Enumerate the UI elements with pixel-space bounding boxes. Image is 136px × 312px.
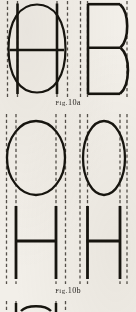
figure-10a-caption: Fig.10a <box>0 98 136 107</box>
figure-10b: Fig.10b <box>0 114 136 300</box>
caption-prefix: Fig. <box>55 99 68 106</box>
narrow-letterform-b <box>76 1 134 97</box>
narrow-h-letter <box>76 200 134 284</box>
figure-10a: Fig.10a <box>0 0 136 112</box>
figure-page: Fig.10a <box>0 0 136 312</box>
wide-h-letter <box>1 200 73 284</box>
narrow-o-bowl <box>76 114 134 200</box>
figure-10b-caption: Fig.10b <box>0 286 136 295</box>
caption-prefix: Fig. <box>55 287 68 294</box>
wide-o-bowl <box>1 114 73 200</box>
cropped-arc-figure <box>1 301 73 312</box>
caption-number: 10b <box>68 286 81 295</box>
wide-rounded-letterform-with-crossbar <box>2 1 74 97</box>
caption-number: 10a <box>68 98 81 107</box>
